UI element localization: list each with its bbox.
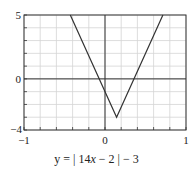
caption-prefix: y = | 14 (54, 152, 90, 166)
x-tick-label-zero: 0 (102, 134, 108, 146)
x-tick-label-right: 1 (183, 134, 189, 146)
y-tick-label-zero: 0 (16, 73, 22, 85)
y-tick-label-top: 5 (16, 9, 22, 21)
chart-plot: 5 0 −4 −1 0 1 (0, 0, 193, 172)
caption-suffix: − 2 | − 3 (96, 152, 139, 166)
x-tick-label-left: −1 (18, 134, 30, 146)
chart-caption: y = | 14x − 2 | − 3 (0, 152, 193, 167)
